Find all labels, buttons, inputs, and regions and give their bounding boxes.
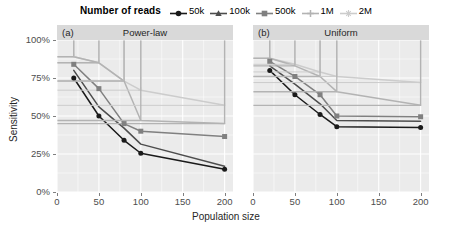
legend-label: 100k: [229, 5, 250, 16]
x-tick-mark: [379, 193, 380, 196]
legend-key-2m-icon: [340, 5, 357, 16]
panel-title: Power-law: [57, 27, 233, 38]
y-tick-mark: [53, 40, 56, 41]
legend-item-100k: 100k: [210, 5, 250, 16]
x-tick-mark: [295, 193, 296, 196]
x-tick-mark: [183, 193, 184, 196]
y-tick-label: 75%: [16, 73, 50, 83]
y-axis-label: Sensitivity: [8, 97, 19, 142]
x-tick-label: 0: [44, 197, 70, 207]
x-tick-mark: [141, 193, 142, 196]
legend-item-2m: 2M: [340, 5, 372, 16]
x-tick-mark: [337, 193, 338, 196]
x-tick-label: 0: [240, 197, 266, 207]
legend-label: 2M: [359, 5, 372, 16]
chart-figure: Number of reads 50k 100k 500k 1M 2M (a)P…: [0, 0, 452, 232]
x-tick-mark: [225, 193, 226, 196]
x-tick-mark: [99, 193, 100, 196]
legend-key-50k-icon: [170, 5, 187, 16]
x-tick-label: 50: [282, 197, 308, 207]
x-tick-mark: [253, 193, 254, 196]
panel-a-power-law: [57, 40, 233, 192]
y-tick-label: 100%: [16, 35, 50, 45]
panel-title: Uniform: [253, 27, 429, 38]
facet-strip-a: (a)Power-law: [57, 25, 233, 40]
x-tick-label: 50: [86, 197, 112, 207]
legend-title: Number of reads: [80, 5, 161, 16]
panel-tag: (b): [258, 27, 270, 38]
x-tick-mark: [421, 193, 422, 196]
y-tick-mark: [53, 78, 56, 79]
x-axis-label: Population size: [0, 211, 452, 222]
x-tick-label: 150: [170, 197, 196, 207]
y-tick-label: 25%: [16, 149, 50, 159]
panel-b-uniform: [253, 40, 429, 192]
y-tick-mark: [53, 154, 56, 155]
legend-key-100k-icon: [210, 5, 227, 16]
legend-item-500k: 500k: [256, 5, 296, 16]
x-tick-label: 100: [128, 197, 154, 207]
y-tick-mark: [53, 116, 56, 117]
legend-label: 1M: [321, 5, 334, 16]
x-tick-mark: [57, 193, 58, 196]
legend-key-1m-icon: [302, 5, 319, 16]
x-tick-label: 100: [324, 197, 350, 207]
x-tick-label: 200: [212, 197, 238, 207]
y-tick-mark: [53, 192, 56, 193]
facet-strip-b: (b)Uniform: [253, 25, 429, 40]
x-tick-label: 150: [366, 197, 392, 207]
chart-legend: Number of reads 50k 100k 500k 1M 2M: [0, 1, 452, 19]
panel-tag: (a): [62, 27, 74, 38]
legend-key-500k-icon: [256, 5, 273, 16]
legend-item-1m: 1M: [302, 5, 334, 16]
x-tick-label: 200: [408, 197, 434, 207]
legend-item-50k: 50k: [170, 5, 204, 16]
legend-label: 500k: [275, 5, 296, 16]
legend-label: 50k: [189, 5, 204, 16]
y-tick-label: 50%: [16, 111, 50, 121]
y-tick-label: 0%: [16, 187, 50, 197]
